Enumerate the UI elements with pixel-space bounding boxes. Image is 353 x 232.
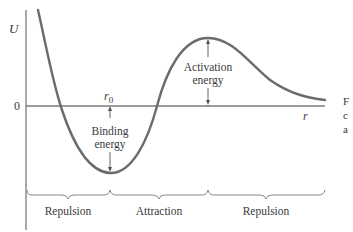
y-axis-label: U [9,21,20,36]
activation-energy-label-line2: energy [192,74,223,87]
binding-energy-label-line2: energy [94,138,125,151]
caption-fragment-3: a [343,123,348,135]
potential-energy-curve [38,10,325,173]
activation-energy-label-line1: Activation [184,61,233,73]
activation-energy-arrowhead-up [206,39,210,44]
caption-fragment-1: F [343,95,349,107]
x-axis-label: r [303,109,308,123]
brace-repulsion-right [208,190,325,199]
region-label-attraction: Attraction [136,205,183,217]
binding-energy-arrowhead-down [108,167,112,172]
region-label-repulsion-left: Repulsion [45,205,92,218]
caption-fragment-2: c [343,109,348,121]
region-label-repulsion-right: Repulsion [243,205,290,218]
zero-label: 0 [14,99,20,113]
activation-energy-arrowhead-down [206,100,210,105]
binding-energy-label-line1: Binding [91,125,128,138]
binding-energy-arrowhead-up [108,106,112,111]
equilibrium-distance-label: r0 [104,89,114,105]
brace-attraction [110,190,208,199]
potential-energy-diagram: U 0 r r0 Binding energy Activation energ… [0,0,353,232]
brace-repulsion-left [27,190,110,199]
